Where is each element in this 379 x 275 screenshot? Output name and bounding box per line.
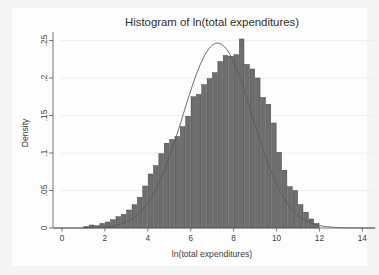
y-tick-label: .25 <box>40 34 49 46</box>
x-tick-label: 10 <box>272 234 282 243</box>
x-tick-label: 2 <box>103 234 108 243</box>
x-axis-ticks: 02468101214 <box>60 228 368 243</box>
gridlines <box>60 41 375 191</box>
x-tick-label: 4 <box>146 234 151 243</box>
histogram-bars <box>84 39 319 228</box>
x-tick-label: 14 <box>358 234 368 243</box>
y-axis-ticks: 0.05.1.15.2.25 <box>40 34 53 230</box>
histogram-chart: 02468101214 0.05.1.15.2.25 Histogram of … <box>0 0 379 275</box>
x-tick-label: 12 <box>315 234 325 243</box>
chart-title: Histogram of ln(total expenditures) <box>125 16 299 28</box>
y-axis-title: Density <box>20 118 30 147</box>
x-tick-label: 6 <box>188 234 193 243</box>
y-tick-label: .15 <box>40 109 49 121</box>
y-tick-label: .1 <box>40 149 49 156</box>
y-tick-label: .05 <box>40 184 49 196</box>
y-tick-label: 0 <box>40 225 49 230</box>
x-tick-label: 8 <box>231 234 236 243</box>
screenshot-root: 02468101214 0.05.1.15.2.25 Histogram of … <box>0 0 379 275</box>
x-axis-title: ln(total expenditures) <box>172 249 252 259</box>
y-tick-label: .2 <box>40 74 49 81</box>
x-tick-label: 0 <box>60 234 65 243</box>
